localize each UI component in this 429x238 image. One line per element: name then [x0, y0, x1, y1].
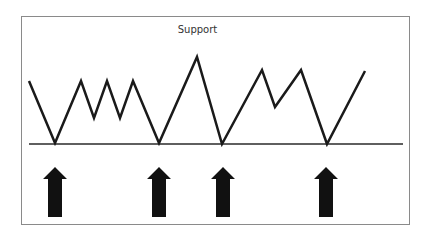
- support-diagram: [0, 0, 429, 238]
- price-path: [29, 57, 365, 144]
- up-arrow-icon: [314, 167, 338, 217]
- arrow-group: [43, 167, 338, 217]
- up-arrow-icon: [147, 167, 171, 217]
- up-arrow-icon: [211, 167, 235, 217]
- up-arrow-icon: [43, 167, 67, 217]
